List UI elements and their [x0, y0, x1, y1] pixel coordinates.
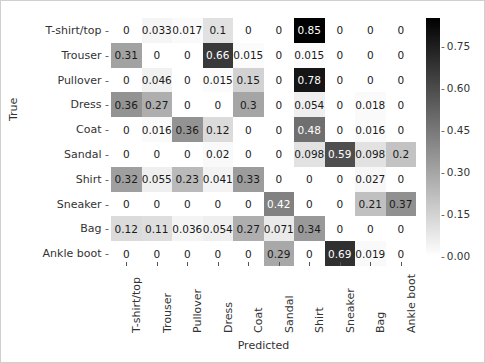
x-tick-label: Pullover — [191, 289, 204, 333]
heatmap-cell: 0 — [325, 92, 356, 117]
y-tick-label: Shirt - — [9, 173, 109, 186]
colorbar-tick-label: -0.60 — [441, 82, 470, 94]
y-tick-label: Sneaker - — [9, 198, 109, 211]
heatmap-cell: 0 — [325, 68, 356, 93]
heatmap-cell: 0.15 — [233, 68, 264, 93]
heatmap-cell: 0 — [325, 117, 356, 142]
x-tick-label: Trouser — [161, 293, 174, 333]
y-tick-label: T-shirt/top - — [9, 24, 109, 37]
heatmap-cell: 0.054 — [203, 216, 234, 241]
heatmap-cell: 0 — [355, 18, 386, 43]
heatmap-cell: 0.017 — [172, 18, 203, 43]
heatmap-cell: 0.85 — [294, 18, 325, 43]
heatmap-cell: 0.036 — [172, 216, 203, 241]
y-tick-label: Pullover - — [9, 74, 109, 87]
heatmap-cell: 0.054 — [294, 92, 325, 117]
colorbar-tick-label: -0.45 — [441, 124, 470, 136]
x-tick-label: Coat — [252, 308, 265, 333]
heatmap-cell: 0 — [233, 142, 264, 167]
heatmap-cell: 0 — [386, 92, 417, 117]
colorbar-tick-label: -0.00 — [441, 250, 470, 262]
heatmap-cell: 0.12 — [203, 117, 234, 142]
heatmap-cell: 0 — [264, 167, 295, 192]
heatmap-cell: 0.015 — [203, 68, 234, 93]
heatmap-cell: 0.48 — [294, 117, 325, 142]
x-tick-mark — [279, 262, 280, 266]
x-tick-mark — [218, 262, 219, 266]
heatmap-cell: 0 — [172, 142, 203, 167]
heatmap-cell: 0 — [386, 68, 417, 93]
heatmap-cell: 0 — [386, 43, 417, 68]
heatmap-cell: 0.046 — [142, 68, 173, 93]
heatmap-cell: 0 — [325, 167, 356, 192]
heatmap-cell: 0 — [325, 18, 356, 43]
y-tick-label: Trouser - — [9, 49, 109, 62]
colorbar-tick-label: -0.30 — [441, 166, 470, 178]
heatmap-cell: 0 — [142, 142, 173, 167]
heatmap-cell: 0 — [264, 117, 295, 142]
heatmap-cell: 0 — [355, 216, 386, 241]
heatmap-cell: 0 — [142, 43, 173, 68]
x-tick-label: Sneaker — [344, 288, 357, 333]
heatmap-cell: 0.66 — [203, 43, 234, 68]
heatmap-cell: 0.78 — [294, 68, 325, 93]
x-tick-mark — [187, 262, 188, 266]
heatmap-cell: 0.041 — [203, 167, 234, 192]
heatmap-cell: 0 — [203, 192, 234, 217]
heatmap-cell: 0.11 — [142, 216, 173, 241]
heatmap-cell: 0 — [203, 92, 234, 117]
heatmap-cell: 0 — [386, 18, 417, 43]
heatmap-cell: 0.016 — [355, 117, 386, 142]
heatmap-cell: 0 — [264, 68, 295, 93]
heatmap-cell: 0 — [111, 68, 142, 93]
x-tick-mark — [340, 262, 341, 266]
x-tick-mark — [248, 262, 249, 266]
heatmap-cell: 0 — [172, 43, 203, 68]
heatmap-cell: 0.018 — [355, 92, 386, 117]
heatmap-cell: 0 — [264, 142, 295, 167]
heatmap-cell: 0 — [325, 43, 356, 68]
colorbar-tick-label: -0.75 — [441, 40, 470, 52]
heatmap-cell: 0 — [111, 142, 142, 167]
y-axis-tick-labels: T-shirt/top -Trouser -Pullover -Dress -C… — [9, 18, 109, 266]
heatmap-cell: 0 — [142, 192, 173, 217]
heatmap-cell: 0 — [264, 92, 295, 117]
heatmap-cell: 0.36 — [111, 92, 142, 117]
heatmap-cell: 0.59 — [325, 142, 356, 167]
colorbar-tick-labels: -0.00-0.15-0.30-0.45-0.60-0.75 — [441, 18, 485, 256]
heatmap-cell: 0.016 — [142, 117, 173, 142]
heatmap-cell: 0.098 — [355, 142, 386, 167]
x-axis-title: Predicted — [111, 339, 416, 352]
heatmap-cell: 0 — [294, 167, 325, 192]
x-axis-tick-labels: T-shirt/topTrouserPulloverDressCoatSanda… — [111, 267, 416, 337]
heatmap-cell: 0 — [264, 18, 295, 43]
colorbar-tick-label: -0.15 — [441, 208, 470, 220]
heatmap-cell: 0 — [264, 43, 295, 68]
y-tick-label: Coat - — [9, 123, 109, 136]
x-tick-label: Sandal — [283, 296, 296, 333]
heatmap-cell: 0 — [111, 117, 142, 142]
x-tick-label: Dress — [222, 302, 235, 333]
x-tick-mark — [126, 262, 127, 266]
heatmap-cell: 0.31 — [111, 43, 142, 68]
heatmap-cell: 0.015 — [233, 43, 264, 68]
heatmap-cell: 0 — [111, 192, 142, 217]
heatmap-cell: 0.36 — [172, 117, 203, 142]
heatmap-cell: 0.3 — [233, 92, 264, 117]
heatmap-cell: 0.21 — [355, 192, 386, 217]
heatmap-cell: 0 — [355, 68, 386, 93]
heatmap-cell: 0.27 — [233, 216, 264, 241]
heatmap-cell: 0 — [233, 117, 264, 142]
heatmap-cell: 0.23 — [172, 167, 203, 192]
x-tick-label: Shirt — [313, 307, 326, 333]
heatmap-cell: 0.27 — [142, 92, 173, 117]
x-tick-label: Ankle boot — [405, 274, 418, 333]
heatmap-cell: 0.098 — [294, 142, 325, 167]
heatmap-cell: 0 — [172, 68, 203, 93]
heatmap-cell: 0.055 — [142, 167, 173, 192]
heatmap-cell: 0.32 — [111, 167, 142, 192]
heatmap-cell: 0.015 — [294, 43, 325, 68]
heatmap-cell: 0.071 — [264, 216, 295, 241]
heatmap-cell: 0 — [172, 192, 203, 217]
y-tick-label: Dress - — [9, 98, 109, 111]
